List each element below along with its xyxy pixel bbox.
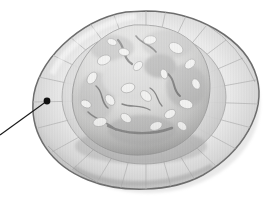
figure-root: Food item on scalloped plate Round baked…: [0, 0, 274, 210]
callout-dot[interactable]: [44, 98, 51, 105]
photograph-canvas: [0, 0, 274, 210]
